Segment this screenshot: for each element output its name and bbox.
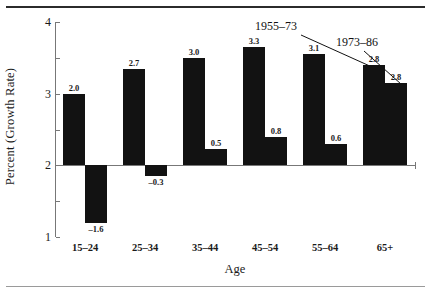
plot-area: 43210–1–2 2.0–1.62.7–0.33.00.53.30.83.10… bbox=[55, 22, 415, 237]
y-tick-label: 2 bbox=[45, 158, 51, 173]
y-tick: –2 bbox=[56, 237, 60, 238]
bar bbox=[63, 94, 85, 166]
bar-group: 2.0–1.6 bbox=[55, 22, 115, 237]
bar-group: 3.00.5 bbox=[175, 22, 235, 237]
figure: Percent (Growth Rate) 43210–1–2 2.0–1.62… bbox=[0, 0, 431, 297]
y-tick-label: 1 bbox=[45, 230, 51, 245]
x-tick-label: 45–54 bbox=[235, 242, 295, 258]
baseline-end-tick bbox=[415, 162, 416, 169]
bar bbox=[123, 69, 145, 166]
series-annotation: 1973–86 bbox=[336, 35, 378, 50]
x-axis-title: Age bbox=[55, 262, 415, 277]
bar bbox=[183, 58, 205, 166]
top-rule bbox=[6, 6, 425, 8]
bar-group: 3.10.6 bbox=[295, 22, 355, 237]
bar bbox=[325, 144, 347, 166]
bar-value-label: –1.6 bbox=[89, 224, 104, 234]
bar bbox=[243, 47, 265, 165]
x-tick-label: 55–64 bbox=[295, 242, 355, 258]
x-tick-label: 35–44 bbox=[175, 242, 235, 258]
bar-value-label: 2.7 bbox=[129, 58, 140, 68]
y-axis-title-text: Percent (Growth Rate) bbox=[4, 67, 19, 184]
x-axis-title-text: Age bbox=[225, 262, 246, 276]
bar bbox=[363, 65, 385, 165]
y-tick-label: 3 bbox=[45, 86, 51, 101]
bar-value-label: 2.0 bbox=[69, 83, 80, 93]
series-annotation: 1955–73 bbox=[255, 19, 297, 34]
x-tick-labels: 15–2425–3435–4445–5455–6465+ bbox=[55, 242, 415, 258]
bar-value-label: 3.3 bbox=[249, 36, 260, 46]
x-tick-label: 15–24 bbox=[55, 242, 115, 258]
bar bbox=[145, 165, 167, 176]
bar-value-label: 0.8 bbox=[271, 126, 282, 136]
bar bbox=[265, 137, 287, 165]
bar-value-label: 2.8 bbox=[391, 72, 402, 82]
bar-group: 2.7–0.3 bbox=[115, 22, 175, 237]
bar bbox=[385, 83, 407, 165]
bar-group: 3.30.8 bbox=[235, 22, 295, 237]
bar-group: 2.82.8 bbox=[355, 22, 415, 237]
y-axis-title: Percent (Growth Rate) bbox=[2, 26, 20, 226]
bar-value-label: 3.1 bbox=[309, 43, 320, 53]
bar-value-label: –0.3 bbox=[149, 177, 164, 187]
x-tick-label: 65+ bbox=[355, 242, 415, 258]
bar-value-label: 3.0 bbox=[189, 47, 200, 57]
bar bbox=[85, 165, 107, 222]
y-tick-label: 4 bbox=[45, 15, 51, 30]
bottom-rule bbox=[6, 286, 425, 287]
bar-value-label: 0.5 bbox=[211, 138, 222, 148]
bar-value-label: 0.6 bbox=[331, 133, 342, 143]
bar-value-label: 2.8 bbox=[369, 54, 380, 64]
bar bbox=[205, 149, 227, 165]
x-tick-label: 25–34 bbox=[115, 242, 175, 258]
bar bbox=[303, 54, 325, 165]
